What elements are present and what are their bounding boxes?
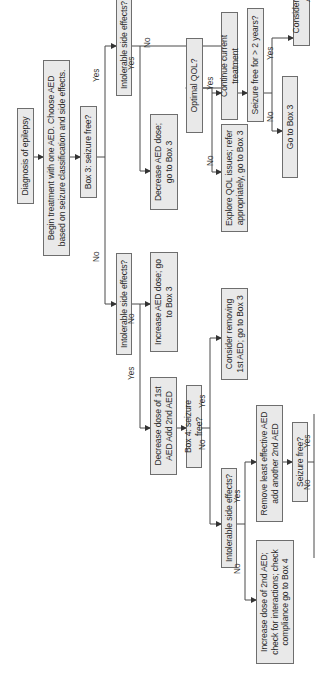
flowchart-outcomes: Continue current Rx or go to Box 4 xyxy=(0,0,326,678)
